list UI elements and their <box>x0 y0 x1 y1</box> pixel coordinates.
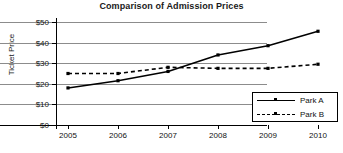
series-layer <box>0 0 343 153</box>
data-point-park-b-2009 <box>266 67 269 70</box>
series-markers-park-a <box>66 30 319 90</box>
legend-item-park-a: Park A <box>253 94 339 108</box>
data-point-park-b-2010 <box>316 63 319 66</box>
data-point-park-a-2009 <box>266 44 269 47</box>
chart-legend: Park A Park B <box>252 92 338 122</box>
legend-item-park-b: Park B <box>253 108 339 122</box>
data-point-park-b-2008 <box>216 67 219 70</box>
data-point-park-a-2008 <box>216 53 219 56</box>
legend-marker-park-a-icon <box>274 98 277 101</box>
data-point-park-b-2005 <box>66 72 69 75</box>
data-point-park-a-2010 <box>316 30 319 33</box>
legend-marker-park-b-icon <box>274 112 277 115</box>
data-point-park-a-2005 <box>66 86 69 89</box>
data-point-park-a-2007 <box>166 70 169 73</box>
line-chart: Comparison of Admission Prices Ticket Pr… <box>0 0 343 153</box>
data-point-park-b-2007 <box>166 66 169 69</box>
data-point-park-b-2006 <box>116 72 119 75</box>
legend-label-park-a: Park A <box>300 96 324 105</box>
series-line-park-b <box>68 64 318 73</box>
series-line-park-a <box>68 31 318 88</box>
legend-label-park-b: Park B <box>300 110 324 119</box>
data-point-park-a-2006 <box>116 79 119 82</box>
